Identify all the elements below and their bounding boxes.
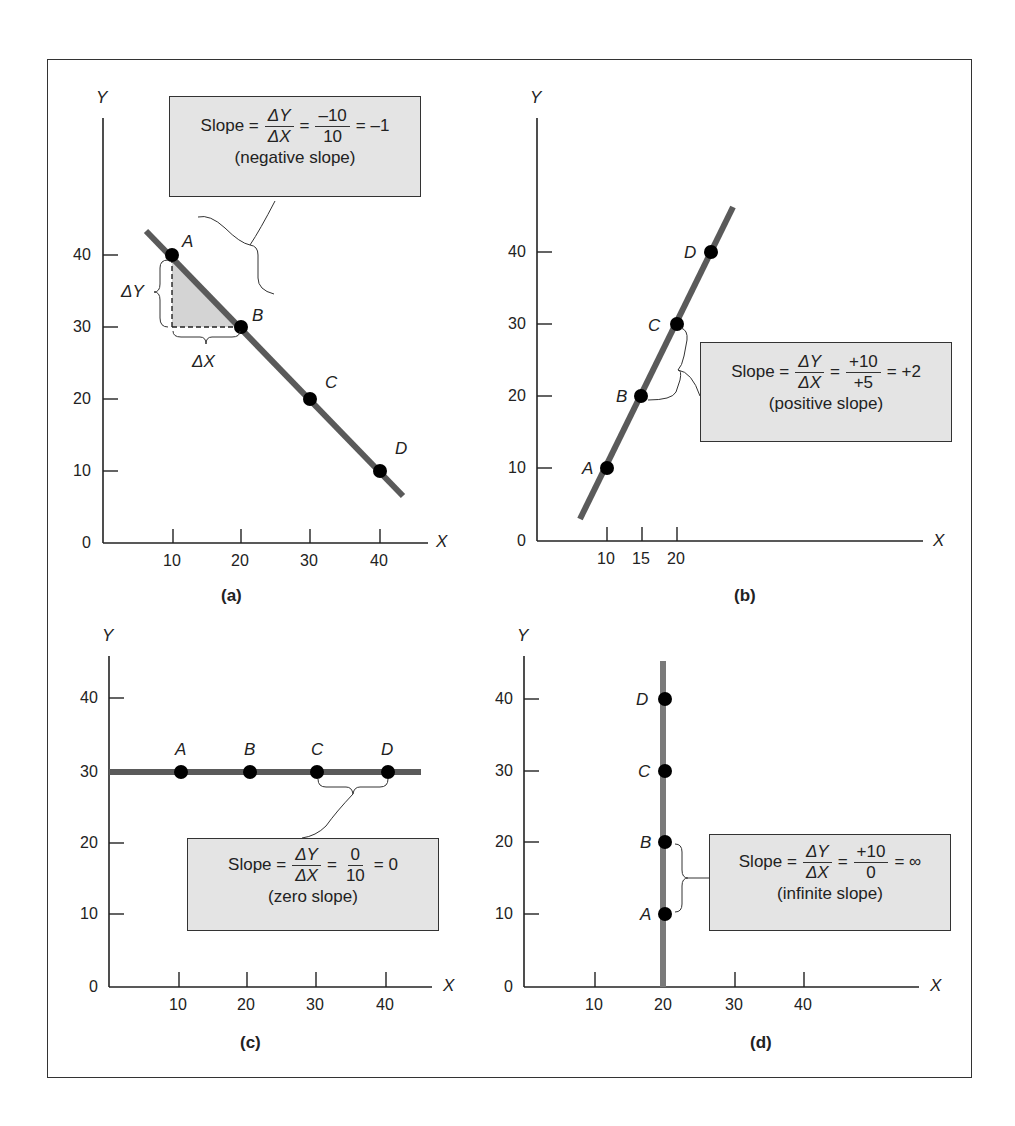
value-fraction: +10 0	[854, 843, 889, 882]
panel-a-point-label-C: C	[325, 373, 337, 393]
panel-a-point-label-B: B	[252, 306, 263, 326]
panel-c-point-label-A: A	[175, 740, 186, 760]
panel-d-xtick-40: 40	[794, 996, 812, 1014]
equals: =	[327, 855, 337, 875]
panel-c-point-label-C: C	[311, 740, 323, 760]
panel-c-caption: (c)	[240, 1033, 261, 1053]
panel-a-xtick-10: 10	[163, 552, 181, 570]
frac-num: –10	[315, 107, 349, 127]
delta-fraction: ΔY ΔX	[803, 843, 832, 882]
frac-den: ΔX	[292, 866, 321, 885]
panel-c	[109, 656, 432, 987]
panel-b-ytick-10: 10	[508, 459, 526, 477]
panel-b-ytick-20: 20	[508, 387, 526, 405]
slope-result: = –1	[356, 116, 390, 136]
panel-b	[537, 118, 923, 541]
panel-d-ytick-30: 30	[495, 762, 513, 780]
delta-fraction: ΔY ΔX	[265, 107, 294, 146]
frac-den: 10	[343, 866, 368, 885]
delta-x-brace	[173, 331, 240, 344]
point-b-C	[670, 317, 684, 331]
value-fraction: +10 +5	[846, 353, 881, 392]
panel-c-point-label-B: B	[244, 740, 255, 760]
panel-b-x-label: X	[933, 531, 944, 551]
panel-b-slope-callout: Slope = ΔY ΔX = +10 +5 = +2 (positive sl…	[700, 342, 952, 442]
panel-a-ytick-10: 10	[73, 462, 91, 480]
panel-a-ytick-40: 40	[73, 246, 91, 264]
panel-a-x-label: X	[436, 532, 447, 552]
slope-note: (positive slope)	[701, 394, 951, 414]
panel-b-point-label-D: D	[684, 243, 696, 263]
equals: =	[838, 852, 848, 872]
point-c-C	[310, 765, 324, 779]
delta-y-brace	[154, 260, 168, 327]
panel-c-slope-callout: Slope = ΔY ΔX = 0 10 = 0 (zero slope)	[187, 838, 439, 931]
frac-den: +5	[851, 373, 876, 392]
point-b-A	[600, 461, 614, 475]
frac-den: 0	[863, 863, 878, 882]
frac-num: ΔY	[265, 107, 294, 127]
frac-den: 10	[320, 127, 345, 146]
panel-a-ytick-0: 0	[82, 534, 91, 552]
panel-a-y-label: Y	[96, 88, 107, 108]
frac-den: ΔX	[265, 127, 294, 146]
panel-d-ytick-0: 0	[504, 978, 513, 996]
slope-note: (infinite slope)	[710, 884, 950, 904]
panel-d-ytick-20: 20	[495, 833, 513, 851]
panel-c-x-label: X	[443, 976, 454, 996]
point-a-B	[234, 320, 248, 334]
slope-result: = ∞	[894, 852, 921, 872]
panel-c-xtick-20: 20	[237, 996, 255, 1014]
callout-brace-d	[675, 844, 688, 912]
panel-c-ytick-10: 10	[80, 905, 98, 923]
point-c-D	[381, 765, 395, 779]
line-a	[146, 231, 403, 496]
panel-b-xtick-15: 15	[632, 550, 650, 568]
panel-a-xtick-20: 20	[231, 552, 249, 570]
panel-d-y-label: Y	[517, 626, 528, 646]
point-c-A	[174, 765, 188, 779]
panel-b-xtick-20: 20	[667, 550, 685, 568]
delta-fraction: ΔY ΔX	[795, 353, 824, 392]
panel-d-xtick-10: 10	[585, 996, 603, 1014]
slope-prefix: Slope =	[228, 855, 286, 875]
slope-prefix: Slope =	[731, 362, 789, 382]
point-b-B	[634, 389, 648, 403]
panel-c-ytick-20: 20	[80, 834, 98, 852]
panel-a-xtick-40: 40	[370, 552, 388, 570]
panel-d	[524, 656, 919, 987]
panel-a-ytick-20: 20	[73, 390, 91, 408]
panel-c-point-label-D: D	[381, 740, 393, 760]
panel-d-xtick-20: 20	[654, 996, 672, 1014]
frac-num: ΔY	[795, 353, 824, 373]
point-a-C	[303, 392, 317, 406]
panel-a-caption: (a)	[221, 586, 242, 606]
point-d-C	[658, 764, 672, 778]
callout-brace-c	[318, 779, 388, 794]
panel-b-ytick-30: 30	[508, 315, 526, 333]
frac-num: 0	[348, 846, 363, 866]
panel-a-ytick-30: 30	[73, 318, 91, 336]
point-d-D	[658, 692, 672, 706]
panel-c-ytick-30: 30	[80, 763, 98, 781]
panel-c-xtick-40: 40	[376, 996, 394, 1014]
panel-c-ytick-0: 0	[89, 978, 98, 996]
slope-prefix: Slope =	[739, 852, 797, 872]
frac-num: ΔY	[803, 843, 832, 863]
panel-a-point-label-D: D	[395, 439, 407, 459]
panel-d-caption: (d)	[750, 1033, 772, 1053]
delta-x-label: ΔX	[192, 352, 215, 372]
panel-a-point-label-A: A	[182, 232, 193, 252]
panel-d-ytick-10: 10	[495, 905, 513, 923]
point-b-D	[704, 245, 718, 259]
panel-d-point-label-D: D	[636, 690, 648, 710]
value-fraction: 0 10	[343, 846, 368, 885]
panel-b-point-label-C: C	[648, 316, 660, 336]
slope-note: (zero slope)	[188, 887, 438, 907]
panel-d-slope-callout: Slope = ΔY ΔX = +10 0 = ∞ (infinite slop…	[709, 834, 951, 931]
panel-c-ytick-40: 40	[80, 689, 98, 707]
panel-d-xtick-30: 30	[725, 996, 743, 1014]
panel-b-ytick-0: 0	[517, 532, 526, 550]
panel-c-xtick-10: 10	[169, 996, 187, 1014]
panel-b-y-label: Y	[530, 88, 541, 108]
